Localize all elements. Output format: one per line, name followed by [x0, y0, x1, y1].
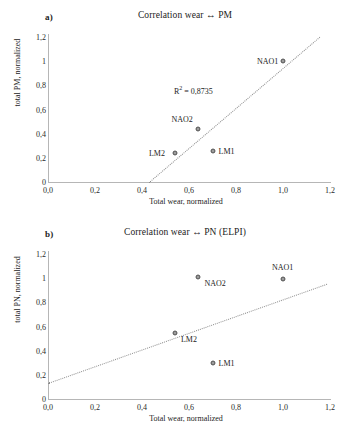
- data-point-marker: [196, 274, 201, 279]
- chart-title-b: Correlation wear ↔ PN (ELPI): [0, 227, 352, 237]
- y-tick-label: 0,4: [36, 129, 46, 138]
- y-tick-label: 1,2: [36, 250, 46, 259]
- x-tick-label: 0,4: [137, 403, 147, 412]
- x-tick-label: 0,0: [43, 186, 53, 195]
- x-tick-label: 0,6: [184, 186, 194, 195]
- data-point-label: LM1: [219, 359, 235, 368]
- data-point-marker: [281, 59, 286, 64]
- x-axis-line-b: [48, 399, 331, 400]
- y-tick-label: 0,8: [36, 81, 46, 90]
- r-squared-label-a: R2 = 0,8735: [174, 85, 213, 96]
- chart-panel-b: b) Correlation wear ↔ PN (ELPI) total PN…: [0, 217, 352, 434]
- data-point-label: NAO2: [171, 115, 192, 124]
- figure-root: a) Correlation wear ↔ PM total PM, norma…: [0, 0, 352, 434]
- data-point-label: NAO1: [272, 263, 293, 272]
- chart-panel-a: a) Correlation wear ↔ PM total PM, norma…: [0, 0, 352, 217]
- plot-area-a: NAO1NAO2LM2LM1: [48, 34, 330, 182]
- data-point-marker: [172, 151, 177, 156]
- y-tick-label: 0,6: [36, 322, 46, 331]
- y-tick-label: 0,2: [36, 153, 46, 162]
- x-tick-label: 0,4: [137, 186, 147, 195]
- x-tick-label: 1,2: [325, 186, 335, 195]
- x-axis-label-a: Total wear, normalized: [0, 197, 352, 206]
- data-point-label: NAO1: [257, 57, 278, 66]
- data-point-marker: [281, 277, 286, 282]
- y-axis-ticks-b: 00,20,40,60,811,2: [0, 217, 46, 434]
- x-tick-label: 0,2: [90, 186, 100, 195]
- data-point-marker: [210, 148, 215, 153]
- chart-title-a: Correlation wear ↔ PM: [0, 10, 352, 20]
- data-point-marker: [172, 331, 177, 336]
- data-point-label: LM2: [181, 335, 197, 344]
- y-tick-label: 0,8: [36, 298, 46, 307]
- x-tick-label: 0,2: [90, 403, 100, 412]
- y-axis-ticks-a: 00,20,40,60,811,2: [0, 0, 46, 217]
- y-tick-label: 1: [42, 57, 46, 66]
- y-tick-label: 0,2: [36, 370, 46, 379]
- x-tick-label: 1,0: [278, 186, 288, 195]
- trendline: [48, 284, 327, 384]
- x-tick-label: 0,6: [184, 403, 194, 412]
- data-point-label: LM2: [149, 149, 165, 158]
- data-point-marker: [210, 360, 215, 365]
- x-tick-label: 0,8: [231, 403, 241, 412]
- x-tick-label: 0,0: [43, 403, 53, 412]
- x-tick-label: 0,8: [231, 186, 241, 195]
- x-axis-line-a: [48, 182, 331, 183]
- x-tick-label: 1,0: [278, 403, 288, 412]
- data-point-label: LM1: [219, 147, 235, 156]
- y-tick-label: 1: [42, 274, 46, 283]
- trendline: [149, 37, 320, 183]
- y-tick-label: 0,4: [36, 346, 46, 355]
- x-tick-label: 1,2: [325, 403, 335, 412]
- y-tick-label: 0,6: [36, 105, 46, 114]
- data-point-label: NAO2: [204, 279, 225, 288]
- x-axis-label-b: Total wear, normalized: [0, 414, 352, 423]
- y-tick-label: 1,2: [36, 33, 46, 42]
- data-point-marker: [196, 126, 201, 131]
- plot-area-b: NAO1NAO2LM2LM1: [48, 251, 330, 399]
